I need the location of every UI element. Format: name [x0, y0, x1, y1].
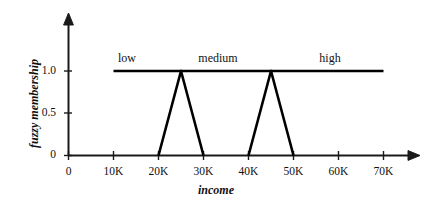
x-tick-label-70k: 70K	[364, 166, 404, 178]
x-tick-label-40k: 40K	[229, 166, 269, 178]
curve-label-medium: medium	[183, 52, 253, 64]
y-tick-label-0: 0	[22, 149, 56, 161]
curve-label-low: low	[92, 52, 162, 64]
x-axis-title: income	[198, 184, 234, 196]
x-tick-label-30k: 30K	[184, 166, 224, 178]
x-tick-label-10k: 10K	[94, 166, 134, 178]
x-tick-label-20k: 20K	[139, 166, 179, 178]
x-axis	[69, 151, 421, 161]
curve-high	[249, 71, 384, 156]
curve-label-high: high	[295, 52, 365, 64]
y-tick-label-1: 1.0	[22, 65, 56, 77]
curve-low	[114, 71, 204, 156]
x-tick-label-50k: 50K	[274, 166, 314, 178]
x-tick-label-0: 0	[49, 166, 89, 178]
y-tick-label-0point5: 0.5	[22, 107, 56, 119]
x-tick-label-60k: 60K	[319, 166, 359, 178]
y-axis	[64, 13, 74, 156]
fuzzy-membership-chart: fuzzy membership income 1.0 0.5 0 0 10K …	[0, 0, 442, 206]
curve-medium	[159, 71, 294, 156]
